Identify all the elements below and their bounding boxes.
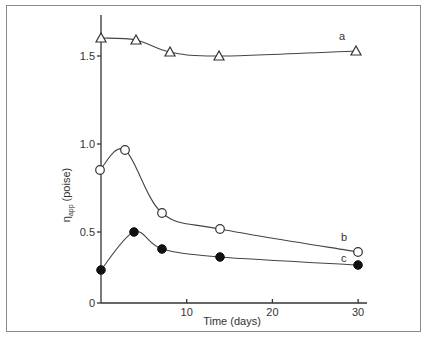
filled-circle-marker <box>158 245 167 254</box>
x-tick-label: 10 <box>181 306 193 318</box>
y-tick-label: 0 <box>89 297 95 309</box>
series-labels: abc <box>339 30 347 264</box>
series-label-a: a <box>339 30 346 42</box>
y-axis-subscript: app <box>67 204 75 216</box>
open-circle-marker <box>354 248 363 257</box>
y-tick-label: 1.5 <box>80 50 95 62</box>
y-tick-label: 1.0 <box>80 138 95 150</box>
chart: 00.51.01.5 102030 abc Time (days) ηapp(p… <box>0 0 424 339</box>
open-circle-marker <box>121 146 130 155</box>
markers <box>96 33 363 274</box>
open-circle-marker <box>96 166 105 175</box>
y-tick-label: 0.5 <box>80 226 95 238</box>
curve-c <box>101 232 358 270</box>
y-axis-unit: (poise) <box>60 168 72 202</box>
x-axis-title: Time (days) <box>203 315 261 327</box>
x-tick-label: 20 <box>266 306 278 318</box>
axes <box>101 15 367 303</box>
series-label-c: c <box>341 252 347 264</box>
filled-circle-marker <box>130 228 139 237</box>
series-label-b: b <box>341 231 347 243</box>
curve-b <box>100 149 358 252</box>
filled-circle-marker <box>216 253 225 262</box>
curves <box>100 38 358 270</box>
triangle-marker <box>96 33 106 42</box>
x-tick-label: 30 <box>352 306 364 318</box>
filled-circle-marker <box>354 261 363 270</box>
filled-circle-marker <box>97 266 106 275</box>
triangle-marker <box>351 46 361 55</box>
open-circle-marker <box>158 209 167 218</box>
open-circle-marker <box>216 225 225 234</box>
y-axis-title: ηapp(poise) <box>60 168 75 222</box>
